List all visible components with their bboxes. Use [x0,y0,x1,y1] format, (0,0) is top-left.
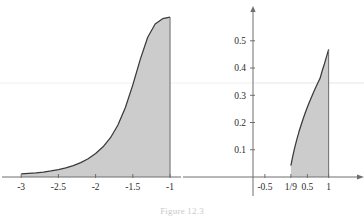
left-plot: -3-2.5-2-1.5-1 [2,17,181,192]
x-tick-label: -3 [17,182,25,192]
figure-caption-text: Figure 12.3 [160,206,204,216]
right-plot-y-axis-arrow-icon [250,6,255,12]
figure-container: -3-2.5-2-1.5-1 -0.51/90.51 0.10.20.30.40… [0,0,364,221]
x-tick-label: 0.5 [301,182,313,192]
x-tick-label: -1 [166,182,174,192]
x-tick-label: -2.5 [51,182,66,192]
y-tick-label: 0.3 [234,91,246,101]
x-tick-label: -0.5 [257,182,272,192]
right-plot-x-axis-arrow-icon [357,174,364,179]
y-tick-label: 0.5 [234,36,246,46]
figure-plots: -3-2.5-2-1.5-1 -0.51/90.51 0.10.20.30.40… [0,0,364,221]
right-plot-x-tick-labels: -0.51/90.51 [257,182,331,192]
y-tick-label: 0.2 [234,118,246,128]
left-plot-x-tick-labels: -3-2.5-2-1.5-1 [17,182,174,192]
y-tick-label: 0.1 [234,145,246,155]
x-tick-label: -2 [92,182,100,192]
x-tick-label: -1.5 [125,182,140,192]
right-plot: -0.51/90.51 0.10.20.30.40.5 [183,6,364,196]
y-tick-label: 0.4 [234,63,246,73]
x-tick-label: 1/9 [285,182,297,192]
figure-caption: Figure 12.3 [0,206,364,216]
x-tick-label: 1 [326,182,331,192]
right-plot-y-tick-labels: 0.10.20.30.40.5 [234,36,246,155]
